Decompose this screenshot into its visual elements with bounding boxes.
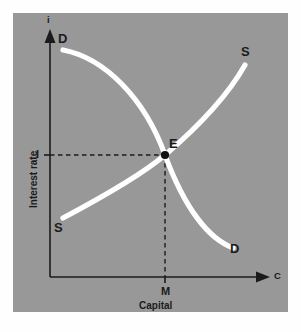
economics-diagram: D D S S E i I Interest rate C M Capital — [0, 0, 301, 332]
equilibrium-label: E — [169, 137, 178, 150]
x-axis-arrow-icon — [256, 272, 270, 283]
demand-curve-label-bottom: D — [230, 242, 239, 255]
x-axis-title: Capital — [139, 301, 172, 311]
x-axis-tick-label: M — [161, 286, 170, 297]
y-axis-title: Interest rate — [29, 151, 39, 208]
y-axis-arrow-icon — [45, 29, 56, 43]
supply-curve-label-top: S — [241, 45, 250, 58]
equilibrium-point-marker — [161, 151, 169, 159]
plot-panel: D D S S E i I Interest rate C M Capital — [13, 13, 288, 312]
x-axis-symbol: C — [274, 271, 281, 281]
demand-curve-label-top: D — [58, 32, 67, 45]
supply-curve — [63, 65, 245, 218]
supply-curve-label-bottom: S — [54, 221, 63, 234]
y-axis-symbol: i — [47, 15, 50, 25]
demand-curve — [63, 50, 233, 248]
